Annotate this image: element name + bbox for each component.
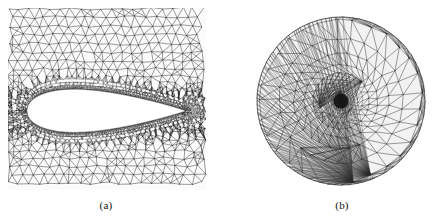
mesh-b-singular-core: [334, 94, 349, 109]
panel-a-airfoil-mesh: [8, 8, 206, 190]
mesh-b-edge-group: [257, 17, 425, 185]
caption-panel-a: (a): [0, 199, 212, 211]
panel-b-circular-mesh: [255, 9, 429, 193]
airfoil-mesh-svg: [8, 8, 206, 190]
caption-panel-b: (b): [250, 199, 434, 211]
figure-root: (a) (b): [0, 0, 441, 222]
circular-mesh-svg: [255, 9, 429, 193]
